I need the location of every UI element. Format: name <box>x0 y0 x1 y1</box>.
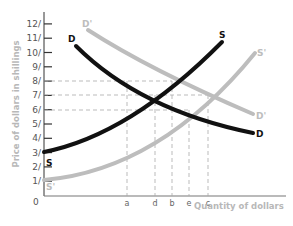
y-tick-label: 4/ <box>32 133 42 143</box>
y-tick-label: 8/ <box>32 76 42 86</box>
x-category-label: d <box>152 199 157 208</box>
label-s-end: S <box>219 30 225 40</box>
y-tick-label: 5/ <box>32 119 42 129</box>
label-s-prime-end: S' <box>257 48 266 58</box>
y-tick-label: 11/ <box>27 33 42 43</box>
x-axis-title: Quantity of dollars <box>194 201 284 211</box>
x-category-label: b <box>169 199 174 208</box>
y-tick-label: 9/ <box>32 62 42 72</box>
curve-s-prime <box>44 53 255 180</box>
reference-lines <box>44 81 208 196</box>
y-tick-label: 2/ <box>32 162 42 172</box>
y-axis-title: Price of dollars in shillings <box>11 40 21 167</box>
y-tick-label: 1/ <box>32 176 42 186</box>
label-s-prime-start: S' <box>46 182 55 192</box>
origin-label: 0 <box>33 197 39 207</box>
label-d-prime-end: D' <box>256 111 266 121</box>
y-tick-label: 6/ <box>32 105 42 115</box>
x-category-label: a <box>125 199 130 208</box>
label-d-prime-start: D' <box>82 19 92 29</box>
label-d-end: D <box>256 129 263 139</box>
x-category-label: e <box>187 199 192 208</box>
supply-demand-chart: Price of dollars in shillings 1/2/3/4/5/… <box>0 0 293 226</box>
label-s-start: S <box>46 158 52 168</box>
label-d-start: D <box>68 34 75 44</box>
curve-d <box>76 46 253 133</box>
y-tick-label: 3/ <box>32 148 42 158</box>
y-tick-label: 10/ <box>27 48 42 58</box>
curve-d-prime <box>88 30 253 114</box>
y-tick-label: 7/ <box>32 90 42 100</box>
y-tick-label: 12/ <box>27 19 42 29</box>
